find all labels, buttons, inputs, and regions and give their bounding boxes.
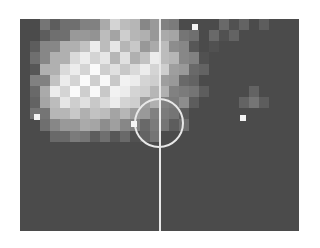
heatmap-cell xyxy=(20,19,30,30)
heatmap-cell xyxy=(100,186,110,197)
heatmap-cell xyxy=(279,131,289,142)
heatmap-cell xyxy=(189,220,199,231)
heatmap-cell xyxy=(199,220,209,231)
heatmap-cell xyxy=(130,175,140,186)
heatmap-cell xyxy=(50,30,60,41)
heatmap-cell xyxy=(189,108,199,119)
heatmap-cell xyxy=(269,175,279,186)
heatmap-cell xyxy=(70,164,80,175)
heatmap-cell xyxy=(199,119,209,130)
heatmap-cell xyxy=(179,198,189,209)
heatmap-cell xyxy=(150,64,160,75)
heatmap-cell xyxy=(40,153,50,164)
heatmap-cell xyxy=(110,108,120,119)
heatmap-cell xyxy=(100,30,110,41)
heatmap-cell xyxy=(100,52,110,63)
heatmap-cell xyxy=(50,64,60,75)
heatmap-cell xyxy=(40,131,50,142)
heatmap-cell xyxy=(269,131,279,142)
heatmap-cell xyxy=(20,153,30,164)
heatmap-cell xyxy=(239,175,249,186)
heatmap-cell xyxy=(259,175,269,186)
heatmap-cell xyxy=(130,186,140,197)
heatmap-cell xyxy=(239,220,249,231)
heatmap-cell xyxy=(279,209,289,220)
heatmap-cell xyxy=(30,41,40,52)
heatmap-cell xyxy=(150,52,160,63)
heatmap-cell xyxy=(90,108,100,119)
heatmap-cell xyxy=(40,108,50,119)
heatmap-cell xyxy=(100,86,110,97)
heatmap-cell xyxy=(150,86,160,97)
heatmap-cell xyxy=(249,186,259,197)
heatmap-cell xyxy=(90,75,100,86)
heatmap-cell xyxy=(90,175,100,186)
heatmap-cell xyxy=(80,64,90,75)
heatmap-cell xyxy=(169,86,179,97)
heatmap-cell xyxy=(209,97,219,108)
heatmap-cell xyxy=(80,186,90,197)
heatmap-cell xyxy=(30,164,40,175)
heatmap-cell xyxy=(229,175,239,186)
heatmap-cell xyxy=(269,19,279,30)
heatmap-cell xyxy=(30,186,40,197)
heatmap-cell xyxy=(269,186,279,197)
heatmap-cell xyxy=(70,119,80,130)
heatmap-cell xyxy=(189,142,199,153)
heatmap-cell xyxy=(219,164,229,175)
heatmap-cell xyxy=(179,142,189,153)
heatmap-cell xyxy=(239,41,249,52)
heatmap-cell xyxy=(50,220,60,231)
heatmap-cell xyxy=(249,86,259,97)
heatmap-cell xyxy=(239,97,249,108)
heatmap-cell xyxy=(30,220,40,231)
heatmap-cell xyxy=(209,30,219,41)
heatmap-cell xyxy=(110,119,120,130)
heatmap-cell xyxy=(199,108,209,119)
heatmap-cell xyxy=(120,164,130,175)
heatmap-cell xyxy=(110,97,120,108)
heatmap-cell xyxy=(130,220,140,231)
heatmap-cell xyxy=(179,75,189,86)
heatmap-cell xyxy=(229,198,239,209)
heatmap-cell xyxy=(30,142,40,153)
heatmap-cell xyxy=(50,175,60,186)
heatmap-cell xyxy=(279,52,289,63)
heatmap-cell xyxy=(249,142,259,153)
heatmap-cell xyxy=(199,209,209,220)
heatmap-cell xyxy=(90,131,100,142)
heatmap-cell xyxy=(120,175,130,186)
heatmap-cell xyxy=(130,52,140,63)
heatmap-cell xyxy=(199,52,209,63)
heatmap-cell xyxy=(249,131,259,142)
heatmap-cell xyxy=(279,142,289,153)
heatmap-cell xyxy=(259,209,269,220)
heatmap-cell xyxy=(259,119,269,130)
heatmap-cell xyxy=(120,186,130,197)
heatmap-cell xyxy=(219,142,229,153)
heatmap-cell xyxy=(110,142,120,153)
heatmap-cell xyxy=(249,220,259,231)
heatmap-cell xyxy=(249,108,259,119)
heatmap-cell xyxy=(70,108,80,119)
heatmap-cell xyxy=(60,64,70,75)
heatmap-cell xyxy=(120,142,130,153)
heatmap-cell xyxy=(229,52,239,63)
heatmap-cell xyxy=(130,64,140,75)
heatmap-cell xyxy=(150,75,160,86)
heatmap-cell xyxy=(120,220,130,231)
heatmap-cell xyxy=(60,209,70,220)
heatmap-cell xyxy=(70,75,80,86)
heatmap-cell xyxy=(40,175,50,186)
heatmap-cell xyxy=(20,41,30,52)
heatmap-cell xyxy=(269,41,279,52)
heatmap-cell xyxy=(189,97,199,108)
heatmap-cell xyxy=(279,220,289,231)
heatmap-cell xyxy=(110,198,120,209)
heatmap-cell xyxy=(259,186,269,197)
heatmap-cell xyxy=(249,175,259,186)
heatmap-cell xyxy=(80,153,90,164)
heatmap-cell xyxy=(289,119,299,130)
heatmap-hotspot xyxy=(192,24,198,30)
heatmap-cell xyxy=(90,64,100,75)
